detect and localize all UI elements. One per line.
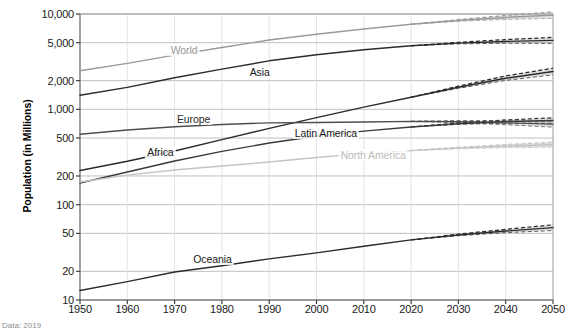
x-tick-label: 2000	[305, 303, 329, 315]
y-tick-label: 5,000	[47, 37, 74, 49]
series-label-world: World	[169, 44, 200, 56]
series-label-asia: Asia	[248, 66, 272, 78]
x-tick-label: 1990	[257, 303, 281, 315]
y-tick-label: 200	[56, 170, 74, 182]
x-tick-label: 2010	[352, 303, 376, 315]
y-tick-label: 2,000	[47, 75, 74, 87]
series-label-north-america: North America	[339, 149, 408, 161]
y-axis-tick-labels: 10,0005,0002,0001,000500200100502010	[20, 0, 74, 330]
y-tick-label: 100	[56, 199, 74, 211]
band-lower-bound	[411, 75, 553, 97]
series-label-africa: Africa	[145, 146, 175, 158]
x-tick-label: 1970	[163, 303, 187, 315]
x-tick-label: 1960	[115, 303, 139, 315]
x-tick-label: 2030	[447, 303, 471, 315]
x-tick-label: 1950	[68, 303, 92, 315]
series-label-europe: Europe	[175, 113, 212, 125]
y-tick-label: 1,000	[47, 103, 74, 115]
y-tick-label: 20	[62, 265, 74, 277]
x-tick-label: 2040	[494, 303, 518, 315]
population-projection-chart: Population (in Millions) 10,0005,0002,00…	[0, 0, 566, 330]
source-note: Data: 2019	[2, 321, 41, 330]
y-tick-label: 500	[56, 132, 74, 144]
series-label-oceania: Oceania	[191, 253, 233, 265]
x-tick-label: 1980	[210, 303, 234, 315]
y-tick-label: 50	[62, 227, 74, 239]
series-label-latin-america: Latin America	[293, 127, 359, 139]
y-tick-label: 10,000	[42, 8, 74, 20]
plot-area	[0, 0, 566, 330]
x-tick-label: 2050	[541, 303, 565, 315]
x-tick-label: 2020	[399, 303, 423, 315]
